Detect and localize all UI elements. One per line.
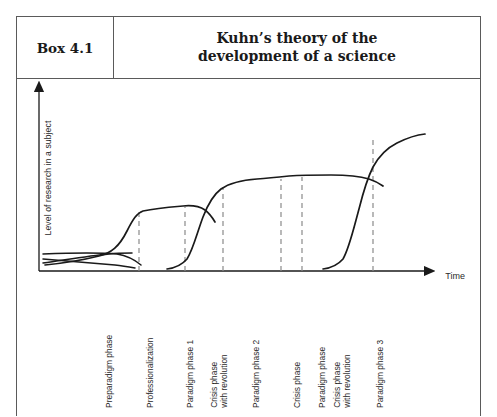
tick-label-professionalization: Professionalization: [146, 338, 156, 408]
box-header: Box 4.1 Kuhn’s theory of the development…: [17, 17, 480, 79]
box-title-line1: Kuhn’s theory of the: [216, 30, 377, 46]
tick-label-paradigm-phase: Paradigm phase: [318, 347, 328, 408]
tick-label-crisis-phase-with-revolution-1: Crisis phase with revolution: [210, 354, 230, 408]
tick-label-crisis-phase-with-revolution-2: Crisis phase with revolution: [333, 354, 353, 408]
x-axis-label: Time: [445, 271, 465, 281]
y-axis-label: Level of research in a subject: [43, 103, 53, 253]
box-number: Box 4.1: [17, 17, 114, 78]
paradigm-2-curve: [167, 175, 383, 269]
tick-label-paradigm-phase-3: Paradigm phase 3: [376, 340, 386, 408]
box-body: Level of research in a subject Time: [17, 79, 480, 416]
tick-label-paradigm-phase-1: Paradigm phase 1: [186, 340, 196, 408]
kuhn-figure: Level of research in a subject Time: [17, 79, 479, 416]
chart-canvas: [17, 79, 479, 416]
tick-label-paradigm-phase-2: Paradigm phase 2: [252, 340, 262, 408]
preparadigm-schools: [43, 253, 141, 268]
tick-label-crisis-phase: Crisis phase: [293, 362, 303, 408]
paradigm-3-curve: [323, 134, 425, 269]
tick-label-preparadigm-phase: Preparadigm phase: [105, 335, 115, 408]
box-title: Kuhn’s theory of the development of a sc…: [114, 17, 480, 78]
phase-dividers: [139, 137, 373, 271]
box-container: Box 4.1 Kuhn’s theory of the development…: [16, 16, 481, 416]
box-title-line2: development of a science: [198, 48, 396, 64]
